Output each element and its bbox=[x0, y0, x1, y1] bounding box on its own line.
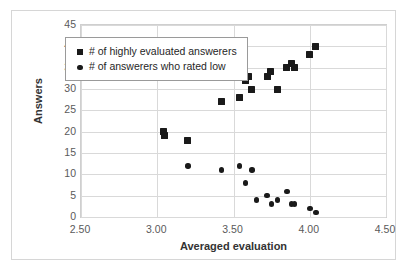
legend-circle-marker-icon bbox=[74, 58, 86, 76]
x-axis-tick-labels: 2.503.003.504.004.50 bbox=[80, 224, 387, 238]
legend-item-highly-evaluated: # of highly evaluated answerers bbox=[74, 44, 237, 59]
y-axis-title: Answers bbox=[32, 59, 44, 143]
y-axis-tick-label: 15 bbox=[50, 147, 76, 158]
x-axis-tick-label: 3.00 bbox=[146, 224, 166, 235]
y-axis-tick-label: 45 bbox=[50, 19, 76, 30]
data-point-series-0 bbox=[161, 132, 168, 139]
data-point-series-0 bbox=[248, 86, 255, 93]
legend-item-rated-low: # of answerers who rated low bbox=[74, 59, 237, 74]
y-axis-tick-label: 5 bbox=[50, 189, 76, 200]
y-axis-tick-label: 30 bbox=[50, 83, 76, 94]
data-point-series-1 bbox=[185, 163, 191, 169]
chart-legend: # of highly evaluated answerers # of ans… bbox=[65, 37, 248, 81]
data-point-series-1 bbox=[292, 201, 298, 207]
y-axis-tick-label: 10 bbox=[50, 168, 76, 179]
y-axis-tick-label: 20 bbox=[50, 125, 76, 136]
data-point-series-1 bbox=[219, 167, 225, 173]
data-point-series-0 bbox=[291, 64, 298, 71]
data-point-series-0 bbox=[312, 43, 319, 50]
gridline-vertical bbox=[386, 25, 387, 217]
chart-container: Answers 051015202530354045 2.503.003.504… bbox=[11, 10, 396, 260]
legend-item-label: # of answerers who rated low bbox=[89, 61, 226, 72]
data-point-series-1 bbox=[264, 193, 270, 199]
data-point-series-1 bbox=[275, 197, 281, 203]
data-point-series-1 bbox=[284, 189, 290, 195]
legend-item-label: # of highly evaluated answerers bbox=[89, 46, 237, 57]
data-point-series-1 bbox=[243, 180, 249, 186]
data-point-series-1 bbox=[307, 206, 313, 212]
data-point-series-0 bbox=[267, 68, 274, 75]
data-point-series-1 bbox=[269, 201, 275, 207]
data-point-series-1 bbox=[254, 197, 260, 203]
x-axis-tick-label: 4.50 bbox=[375, 224, 395, 235]
data-point-series-0 bbox=[306, 51, 313, 58]
x-axis-tick-label: 4.00 bbox=[299, 224, 319, 235]
data-point-series-1 bbox=[249, 167, 255, 173]
x-axis-tick-label: 3.50 bbox=[222, 224, 242, 235]
y-axis-tick-label: 0 bbox=[50, 211, 76, 222]
x-axis-tick-label: 2.50 bbox=[70, 224, 90, 235]
y-axis-tick-label: 25 bbox=[50, 104, 76, 115]
x-axis-title: Averaged evaluation bbox=[80, 240, 387, 252]
gridline-horizontal bbox=[81, 217, 386, 218]
data-point-series-0 bbox=[236, 94, 243, 101]
data-point-series-1 bbox=[237, 163, 243, 169]
data-point-series-0 bbox=[184, 137, 191, 144]
data-point-series-1 bbox=[313, 210, 319, 216]
data-point-series-0 bbox=[218, 98, 225, 105]
data-point-series-0 bbox=[274, 86, 281, 93]
